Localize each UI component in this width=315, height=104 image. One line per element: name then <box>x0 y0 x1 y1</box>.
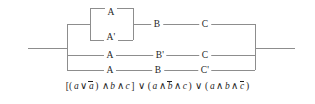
formula-and-4: ∧ <box>173 81 183 91</box>
formula-close-paren-3: ) <box>244 81 250 91</box>
switch-label-b-row1: B <box>151 19 163 29</box>
formula-or-3: ∨ <box>193 81 203 91</box>
switch-label-b-row3: B <box>152 65 164 75</box>
formula-open-bracket: [( <box>64 81 74 91</box>
boolean-formula-caption: [(a∨a)∧b∧c]∨(a∧b∧c)∨(a∧b∧c) <box>0 80 315 91</box>
switch-label-a-prime: A' <box>104 32 118 42</box>
formula-or-1: ∨ <box>79 81 89 91</box>
formula-and-5: ∧ <box>215 81 225 91</box>
switch-label-b-prime-row2: B' <box>153 50 166 60</box>
switch-label-c-prime-row3: C' <box>198 65 211 75</box>
formula-and-6: ∧ <box>230 81 240 91</box>
formula-or-2: ∨ <box>136 81 146 91</box>
formula-and-2: ∧ <box>115 81 125 91</box>
switch-label-a-row2: A <box>104 50 116 60</box>
formula-and-3: ∧ <box>158 81 168 91</box>
switch-label-a-row3: A <box>104 65 116 75</box>
switch-label-a-top: A <box>105 7 117 17</box>
switch-label-c-row1: C <box>199 19 211 29</box>
formula-not-c: c <box>240 81 244 91</box>
formula-not-b: b <box>168 81 173 91</box>
formula-not-a: a <box>89 81 94 91</box>
switch-label-c-row2: C <box>199 50 211 60</box>
formula-var-a-2: a <box>153 81 158 91</box>
formula-and-1: ∧ <box>100 81 110 91</box>
